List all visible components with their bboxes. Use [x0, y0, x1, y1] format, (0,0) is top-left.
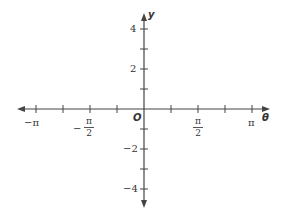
- fraction-denominator: 2: [195, 129, 201, 138]
- origin-label: O: [133, 113, 142, 123]
- x-tick-label-pi: π: [248, 118, 255, 128]
- y-tick-label: −2: [123, 144, 138, 154]
- y-tick-label: −4: [123, 184, 138, 194]
- x-tick-label-half-pi: π 2: [193, 117, 203, 138]
- y-tick-label: 2: [130, 64, 136, 74]
- x-axis-label: θ: [262, 113, 269, 123]
- y-tick-label: 4: [130, 24, 136, 34]
- coordinate-axes: [0, 0, 284, 218]
- fraction-numerator: π: [195, 117, 201, 126]
- fraction-numerator: π: [86, 117, 92, 126]
- fraction-denominator: 2: [86, 129, 92, 138]
- x-axis-left-arrow-icon: [17, 106, 25, 112]
- x-tick-label-sign: −: [73, 124, 81, 134]
- x-tick-label-neg-pi: −π: [24, 118, 39, 128]
- y-axis-up-arrow-icon: [141, 13, 147, 21]
- y-axis-label: y: [148, 10, 155, 20]
- y-axis-down-arrow-icon: [141, 200, 147, 208]
- x-tick-label-neg-half-pi: π 2: [84, 117, 94, 138]
